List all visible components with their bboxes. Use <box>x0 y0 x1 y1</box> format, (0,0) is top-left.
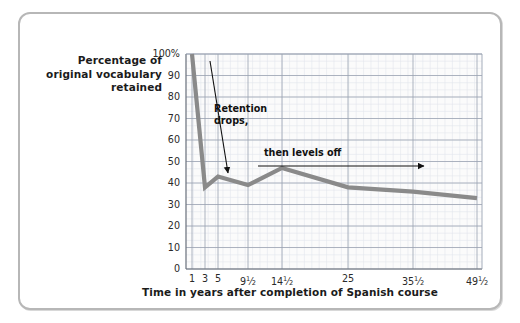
figure-frame: Percentage of original vocabulary retain… <box>18 12 502 310</box>
annotation-retention-drops: Retention drops, <box>214 103 267 126</box>
plot-area <box>20 14 504 312</box>
y-axis-tick-label: 70 <box>138 114 180 124</box>
y-axis-tick-label: 60 <box>138 135 180 145</box>
x-axis-label: Time in years after completion of Spanis… <box>130 286 450 298</box>
annotation-retention-drops-line-2: drops, <box>214 115 267 127</box>
x-axis-tick-label: 25 <box>342 274 354 284</box>
y-axis-tick-label: 50 <box>138 157 180 167</box>
y-axis-tick-label: 30 <box>138 200 180 210</box>
y-axis-tick-label: 100% <box>138 49 180 59</box>
annotation-then-levels-off: then levels off <box>264 147 341 159</box>
x-axis-tick-label: 5 <box>215 274 221 284</box>
chart-figure: Percentage of original vocabulary retain… <box>20 14 504 312</box>
x-axis-tick-label: 491⁄2 <box>466 274 488 288</box>
y-axis-tick-label: 10 <box>138 243 180 253</box>
y-axis-tick-label: 90 <box>138 71 180 81</box>
x-axis-tick-label: 3 <box>202 274 208 284</box>
y-axis-tick-label: 40 <box>138 178 180 188</box>
y-axis-tick-label: 0 <box>138 264 180 274</box>
annotation-retention-drops-line-1: Retention <box>214 103 267 115</box>
y-axis-tick-label: 80 <box>138 92 180 102</box>
x-axis-tick-label: 1 <box>189 274 195 284</box>
y-axis-tick-label: 20 <box>138 221 180 231</box>
